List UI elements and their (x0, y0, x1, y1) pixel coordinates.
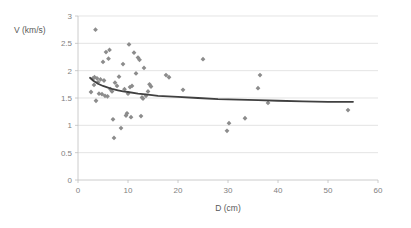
y-tick-label: 2 (68, 67, 73, 76)
y-tick-label: 0 (68, 176, 73, 185)
x-tick-label: 60 (374, 186, 383, 195)
chart-canvas: 00.511.522.53 0102030405060 V (km/s) D (… (0, 0, 411, 228)
data-point-marker (112, 136, 117, 141)
y-tick-label: 2.5 (61, 39, 73, 48)
data-point-marker (119, 126, 124, 131)
data-point-marker (142, 66, 147, 71)
x-tick-label: 50 (324, 186, 333, 195)
data-point-marker (146, 89, 151, 94)
y-tick-labels: 00.511.522.53 (61, 12, 73, 185)
data-point-marker (117, 74, 122, 79)
y-tick-label: 1.5 (61, 94, 73, 103)
x-tick-label: 40 (274, 186, 283, 195)
data-point-marker (256, 86, 261, 91)
x-axis-title: D (cm) (215, 203, 241, 213)
data-point-marker (134, 71, 139, 76)
data-point-marker (101, 60, 106, 65)
data-point-marker (111, 117, 116, 122)
data-point-marker (89, 90, 94, 95)
data-point-marker (201, 57, 206, 62)
data-points (89, 27, 351, 140)
data-point-marker (139, 114, 144, 119)
x-tick-labels: 0102030405060 (76, 186, 383, 195)
y-tick-label: 1 (68, 121, 73, 130)
x-tick-label: 10 (124, 186, 133, 195)
y-axis-title: V (km/s) (14, 25, 46, 35)
data-point-marker (346, 108, 351, 113)
data-point-marker (132, 50, 137, 55)
y-tick-label: 0.5 (61, 149, 73, 158)
scatter-chart: 00.511.522.53 0102030405060 V (km/s) D (… (0, 0, 411, 228)
data-point-marker (243, 116, 248, 121)
x-tick-label: 30 (224, 186, 233, 195)
data-point-marker (127, 42, 132, 47)
x-tick-label: 20 (174, 186, 183, 195)
data-point-marker (102, 78, 107, 83)
y-tick-label: 3 (68, 12, 73, 21)
data-point-marker (94, 98, 99, 103)
x-tick-label: 0 (76, 186, 81, 195)
data-point-marker (129, 115, 134, 120)
data-point-marker (227, 121, 232, 126)
data-point-marker (258, 73, 263, 78)
data-point-marker (225, 128, 230, 133)
data-point-marker (93, 27, 98, 32)
data-point-marker (121, 62, 126, 67)
data-point-marker (106, 56, 111, 61)
data-point-marker (181, 87, 186, 92)
